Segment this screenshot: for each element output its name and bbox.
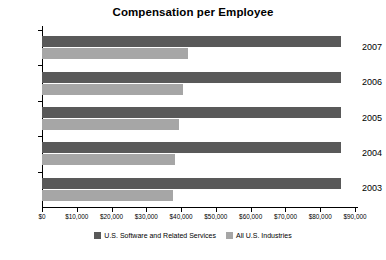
- bar: [42, 178, 341, 189]
- legend-swatch: [226, 232, 233, 239]
- x-axis-tick-label: $60,000: [239, 213, 262, 220]
- x-axis-tick-label: $80,000: [309, 213, 332, 220]
- x-axis-tick: [285, 208, 286, 212]
- x-axis-tick: [181, 208, 182, 212]
- x-axis-tick-label: $30,000: [135, 213, 158, 220]
- bar: [42, 84, 183, 95]
- chart-legend: U.S. Software and Related ServicesAll U.…: [0, 232, 386, 239]
- y-axis-tick: [38, 65, 42, 66]
- y-axis-tick-label: 2006: [348, 77, 386, 87]
- x-axis-tick: [320, 208, 321, 212]
- x-axis-tick-label: $20,000: [100, 213, 123, 220]
- x-axis-tick: [112, 208, 113, 212]
- x-axis-tick-label: $90,000: [343, 213, 366, 220]
- x-axis-tick: [146, 208, 147, 212]
- bar: [42, 107, 341, 118]
- y-axis-tick-label: 2003: [348, 183, 386, 193]
- bar: [42, 119, 179, 130]
- bar: [42, 72, 341, 83]
- legend-entry: All U.S. Industries: [226, 232, 292, 239]
- x-axis-tick: [251, 208, 252, 212]
- y-axis-tick-label: 2004: [348, 148, 386, 158]
- y-axis-tick-label: 2005: [348, 113, 386, 123]
- legend-label: U.S. Software and Related Services: [104, 232, 216, 239]
- x-axis-tick-label: $40,000: [170, 213, 193, 220]
- x-axis-tick: [77, 208, 78, 212]
- x-axis-tick: [42, 208, 43, 212]
- legend-label: All U.S. Industries: [236, 232, 292, 239]
- x-axis-tick-label: $70,000: [274, 213, 297, 220]
- x-axis-tick-label: $10,000: [65, 213, 88, 220]
- bar: [42, 48, 188, 59]
- y-axis-tick: [38, 172, 42, 173]
- bar: [42, 142, 341, 153]
- bar: [42, 190, 173, 201]
- bar: [42, 36, 341, 47]
- bar: [42, 154, 175, 165]
- legend-entry: U.S. Software and Related Services: [94, 232, 216, 239]
- x-axis-tick-label: $0: [38, 213, 45, 220]
- x-axis-tick: [216, 208, 217, 212]
- legend-swatch: [94, 232, 101, 239]
- y-axis-tick: [38, 30, 42, 31]
- y-axis-tick: [38, 101, 42, 102]
- chart-container: Compensation per Employee 20072006200520…: [0, 0, 386, 260]
- y-axis-tick: [38, 136, 42, 137]
- x-axis-tick: [355, 208, 356, 212]
- x-axis-tick-label: $50,000: [204, 213, 227, 220]
- x-axis-line: [42, 207, 358, 208]
- y-axis-tick-label: 2007: [348, 42, 386, 52]
- chart-title: Compensation per Employee: [0, 6, 386, 18]
